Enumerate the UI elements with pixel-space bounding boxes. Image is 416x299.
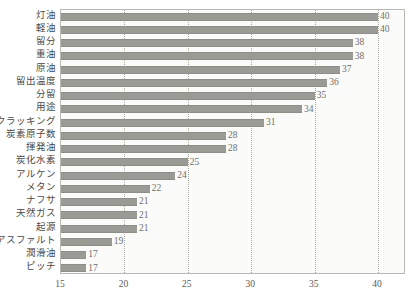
bar-row: 28 <box>61 129 404 142</box>
bar-row: 28 <box>61 143 404 156</box>
bar-value-label: 17 <box>88 264 98 274</box>
category-label: 灯油 <box>36 11 56 21</box>
category-axis-labels: 灯油軽油留分重油原油留出温度分留用途クラッキング炭素原子数揮発油炭化水素アルケン… <box>0 9 58 274</box>
bar-row: 24 <box>61 169 404 182</box>
x-tick-label: 20 <box>119 280 129 290</box>
x-tick-label: 15 <box>55 280 65 290</box>
bar <box>61 26 378 34</box>
category-label: 炭素原子数 <box>6 130 56 140</box>
category-label: 留分 <box>36 37 56 47</box>
category-label: ピッチ <box>26 263 56 273</box>
bar-row: 38 <box>61 50 404 63</box>
bar-row: 40 <box>61 10 404 23</box>
bar <box>61 264 86 272</box>
bar <box>61 225 137 233</box>
category-label: アルケン <box>16 170 56 180</box>
bar <box>61 198 137 206</box>
x-axis: 152025303540 <box>60 274 405 296</box>
category-label: 軽油 <box>36 24 56 34</box>
bar-value-label: 31 <box>266 118 276 128</box>
bar-value-label: 35 <box>317 91 327 101</box>
bar-row: 37 <box>61 63 404 76</box>
bar-value-label: 28 <box>228 144 238 154</box>
category-label: 潤滑油 <box>26 249 56 259</box>
category-label: ナフサ <box>26 196 56 206</box>
x-tick-label: 30 <box>246 280 256 290</box>
category-label: メタン <box>26 183 56 193</box>
bar-row: 21 <box>61 209 404 222</box>
category-label: アスファルト <box>0 236 56 246</box>
bar <box>61 211 137 219</box>
bar <box>61 132 226 140</box>
bar-row: 36 <box>61 76 404 89</box>
x-tick-label: 40 <box>372 280 382 290</box>
bar <box>61 13 378 21</box>
bar-row: 22 <box>61 182 404 195</box>
category-label: 用途 <box>36 104 56 114</box>
category-label: 揮発油 <box>26 143 56 153</box>
plot-area: 4040383837363534312828252422212121191717 <box>60 9 405 274</box>
category-label: 炭化水素 <box>16 157 56 167</box>
bar-row: 17 <box>61 249 404 262</box>
bar-value-label: 28 <box>228 131 238 141</box>
bar-value-label: 37 <box>342 65 352 75</box>
bar-chart: 灯油軽油留分重油原油留出温度分留用途クラッキング炭素原子数揮発油炭化水素アルケン… <box>0 0 416 299</box>
bar-row: 35 <box>61 90 404 103</box>
bar <box>61 158 188 166</box>
bar-row: 17 <box>61 262 404 275</box>
bar-value-label: 25 <box>190 158 200 168</box>
bar-row: 21 <box>61 196 404 209</box>
bar-value-label: 21 <box>139 224 149 234</box>
bar-row: 21 <box>61 222 404 235</box>
category-label: 原油 <box>36 64 56 74</box>
bar-value-label: 40 <box>380 25 390 35</box>
x-tick-label: 35 <box>309 280 319 290</box>
bar-value-label: 21 <box>139 211 149 221</box>
bar-value-label: 22 <box>152 184 162 194</box>
bar-value-label: 21 <box>139 197 149 207</box>
bar-row: 34 <box>61 103 404 116</box>
bar <box>61 105 302 113</box>
bar <box>61 145 226 153</box>
x-tick-label: 25 <box>182 280 192 290</box>
bar-row: 38 <box>61 37 404 50</box>
bar <box>61 119 264 127</box>
bar-value-label: 38 <box>355 52 365 62</box>
bar <box>61 66 340 74</box>
bar <box>61 238 112 246</box>
bar-row: 40 <box>61 23 404 36</box>
bar <box>61 79 327 87</box>
category-label: 天然ガス <box>16 210 56 220</box>
bar-value-label: 17 <box>88 250 98 260</box>
bar <box>61 172 175 180</box>
bar-value-label: 40 <box>380 12 390 22</box>
bar-rows: 4040383837363534312828252422212121191717 <box>61 10 404 273</box>
bar <box>61 92 315 100</box>
bar-value-label: 24 <box>177 171 187 181</box>
bar-value-label: 34 <box>304 105 314 115</box>
category-label: クラッキング <box>0 117 56 127</box>
bar <box>61 185 150 193</box>
bar <box>61 251 86 259</box>
category-label: 重油 <box>36 51 56 61</box>
bar-row: 25 <box>61 156 404 169</box>
bar <box>61 52 353 60</box>
bar <box>61 39 353 47</box>
category-label: 分留 <box>36 90 56 100</box>
bar-value-label: 19 <box>114 237 124 247</box>
bar-row: 31 <box>61 116 404 129</box>
bar-value-label: 36 <box>329 78 339 88</box>
category-label: 起源 <box>36 223 56 233</box>
category-label: 留出温度 <box>16 77 56 87</box>
bar-value-label: 38 <box>355 38 365 48</box>
bar-row: 19 <box>61 235 404 248</box>
